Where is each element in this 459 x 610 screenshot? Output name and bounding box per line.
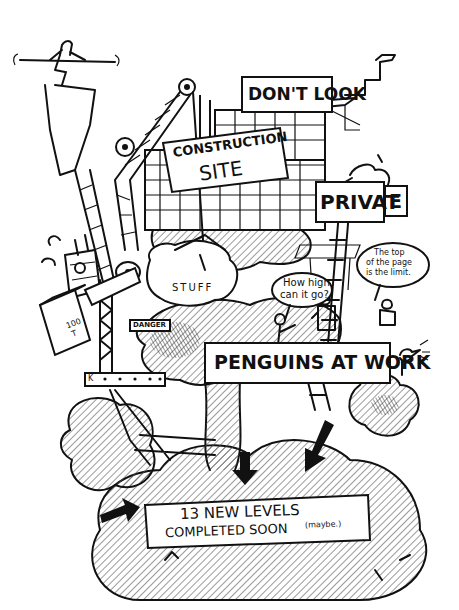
stuff-bag-label: STUFF: [172, 283, 213, 293]
dont-look-sign: DON'T LOOK: [248, 86, 366, 103]
danger-sign-label: DANGER: [133, 322, 166, 329]
new-levels-line1: 13 NEW LEVELS: [180, 503, 300, 522]
how-high-speech-line1: How high: [283, 278, 330, 288]
beam-tag: K: [88, 375, 93, 383]
left-foliage: [61, 398, 155, 490]
private-sign-tail: E: [389, 192, 402, 211]
new-levels-note: (maybe.): [305, 520, 341, 529]
private-sign: PRIVAT: [320, 192, 399, 212]
balance-worker: [14, 41, 119, 85]
top-of-page-speech-line1: The top: [374, 249, 405, 257]
stuff-bag: [147, 241, 237, 306]
how-high-speech-line2: can it go?: [280, 290, 329, 300]
top-of-page-speech-line3: is the limit.: [366, 269, 411, 277]
top-of-page-speech-line2: of the page: [366, 259, 412, 267]
construction-sign-line2: SITE: [198, 158, 244, 184]
beam-with-rivets: [85, 373, 165, 386]
penguins-at-work-sign: PENGUINS AT WORK: [214, 353, 430, 372]
